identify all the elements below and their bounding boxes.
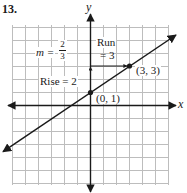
- slope-prefix: m =: [35, 47, 55, 58]
- point-3-3: [127, 63, 132, 68]
- slope-denominator: 3: [60, 52, 65, 61]
- y-axis-label: y: [86, 1, 91, 13]
- slope-fraction: 2 3: [58, 40, 67, 61]
- run-label-line2: = 3: [100, 50, 114, 61]
- run-label-line1: Run: [96, 37, 116, 48]
- coordinate-plane: [0, 0, 187, 193]
- slope-numerator: 2: [60, 40, 65, 49]
- rise-label: Rise = 2: [39, 76, 78, 87]
- problem-number: 13.: [2, 3, 17, 15]
- point-0-1: [88, 90, 93, 95]
- point-label-0-1: (0, 1): [95, 93, 121, 104]
- x-axis-label: x: [178, 98, 183, 110]
- point-label-3-3: (3, 3): [135, 65, 161, 76]
